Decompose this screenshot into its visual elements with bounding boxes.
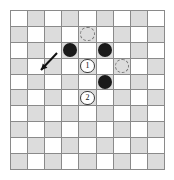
board-cell[interactable]	[79, 43, 96, 59]
board-cell[interactable]	[28, 27, 45, 43]
board-cell[interactable]	[97, 90, 114, 106]
board-cell[interactable]	[11, 27, 28, 43]
board-cell[interactable]	[114, 43, 131, 59]
board-cell[interactable]	[28, 106, 45, 122]
board-cell[interactable]	[131, 154, 148, 170]
board-cell[interactable]	[28, 90, 45, 106]
board-cell[interactable]	[148, 106, 165, 122]
board-cell[interactable]	[11, 138, 28, 154]
board-cell[interactable]	[97, 138, 114, 154]
board-cell[interactable]	[148, 138, 165, 154]
board-cell[interactable]	[148, 75, 165, 91]
board-cell[interactable]	[148, 122, 165, 138]
board-cell[interactable]	[62, 138, 79, 154]
board-cell[interactable]	[11, 154, 28, 170]
board-cell[interactable]	[62, 75, 79, 91]
board-cell[interactable]	[11, 11, 28, 27]
board-cell[interactable]	[11, 122, 28, 138]
board-cell[interactable]	[97, 122, 114, 138]
board-cell[interactable]	[45, 27, 62, 43]
board-cell[interactable]	[62, 59, 79, 75]
board-cell[interactable]	[45, 59, 62, 75]
board-cell[interactable]	[62, 27, 79, 43]
board-cell[interactable]	[45, 122, 62, 138]
board-cell[interactable]	[79, 138, 96, 154]
board-cell[interactable]	[62, 11, 79, 27]
board-cell[interactable]	[114, 106, 131, 122]
board-cell[interactable]	[28, 122, 45, 138]
board-cell[interactable]	[11, 59, 28, 75]
board-cell[interactable]	[148, 11, 165, 27]
numbered-marker[interactable]: 1	[80, 59, 94, 73]
board-cell[interactable]	[114, 138, 131, 154]
board-cell[interactable]	[148, 154, 165, 170]
board-cell[interactable]	[148, 59, 165, 75]
board-cell[interactable]	[62, 90, 79, 106]
board-cell[interactable]	[45, 75, 62, 91]
board-cell[interactable]	[131, 75, 148, 91]
board-cell[interactable]	[131, 138, 148, 154]
black-stone[interactable]	[98, 43, 112, 57]
board-cell[interactable]	[131, 59, 148, 75]
board-cell[interactable]	[131, 11, 148, 27]
board-cell[interactable]	[131, 27, 148, 43]
board-cell[interactable]	[62, 154, 79, 170]
board-cell[interactable]	[114, 90, 131, 106]
board-cell[interactable]	[148, 90, 165, 106]
board-cell[interactable]	[11, 75, 28, 91]
board-cell[interactable]	[131, 43, 148, 59]
board-cell[interactable]	[45, 11, 62, 27]
ghost-position-circle	[80, 27, 94, 41]
board-cell[interactable]	[45, 154, 62, 170]
board-cell[interactable]	[11, 43, 28, 59]
board-cell[interactable]	[45, 43, 62, 59]
board-cell[interactable]	[114, 27, 131, 43]
board-cell[interactable]	[114, 11, 131, 27]
board-cell[interactable]	[97, 154, 114, 170]
board-cell[interactable]	[131, 90, 148, 106]
board-cell[interactable]	[45, 106, 62, 122]
board-cell[interactable]	[114, 122, 131, 138]
board-cell[interactable]	[28, 154, 45, 170]
board-cell[interactable]	[79, 11, 96, 27]
board-cell[interactable]	[62, 122, 79, 138]
board-cell[interactable]	[114, 154, 131, 170]
board-cell[interactable]	[97, 11, 114, 27]
board-cell[interactable]	[11, 90, 28, 106]
board-cell[interactable]	[79, 122, 96, 138]
board-cell[interactable]	[79, 106, 96, 122]
numbered-marker[interactable]: 2	[80, 91, 94, 105]
board-cell[interactable]	[28, 43, 45, 59]
board-cell[interactable]	[45, 138, 62, 154]
board-cell[interactable]	[148, 43, 165, 59]
black-stone[interactable]	[98, 75, 112, 89]
board-cell[interactable]	[97, 59, 114, 75]
board-cell[interactable]	[97, 106, 114, 122]
board-cell[interactable]	[148, 27, 165, 43]
board-cell[interactable]	[131, 106, 148, 122]
board-cell[interactable]	[28, 59, 45, 75]
board-cell[interactable]	[114, 75, 131, 91]
board-cell[interactable]	[28, 11, 45, 27]
board-cell[interactable]	[131, 122, 148, 138]
board-cell[interactable]	[28, 75, 45, 91]
board-cell[interactable]	[62, 106, 79, 122]
board-cell[interactable]	[45, 90, 62, 106]
board-cell[interactable]	[11, 106, 28, 122]
diagram-canvas: 12	[0, 0, 174, 180]
board-cell[interactable]	[28, 138, 45, 154]
board-cell[interactable]	[79, 75, 96, 91]
board-cell[interactable]	[97, 27, 114, 43]
board-cell[interactable]	[79, 154, 96, 170]
